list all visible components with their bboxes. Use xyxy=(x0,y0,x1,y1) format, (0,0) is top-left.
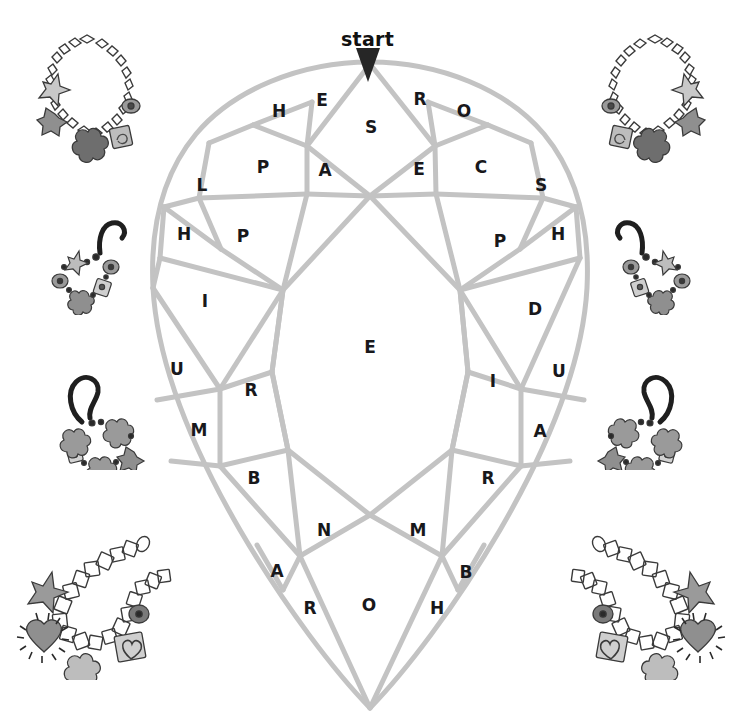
square-chain-links xyxy=(52,534,170,650)
pav-ll-6 xyxy=(288,450,300,556)
star-bead xyxy=(65,251,88,275)
facet-letter: S xyxy=(535,175,547,195)
facet-letter: B xyxy=(248,468,261,488)
decoration-charm-bracelet-top-left xyxy=(25,28,150,163)
spiky-bead xyxy=(117,447,144,470)
pav-ur-5 xyxy=(460,258,580,290)
facet-letter: C xyxy=(475,157,487,177)
facet-letter: E xyxy=(364,337,376,357)
square-charm xyxy=(609,125,633,149)
star-charm xyxy=(39,74,70,106)
square-charm xyxy=(109,125,133,149)
facet-letter: H xyxy=(272,101,286,121)
facet-letter: H xyxy=(430,598,444,618)
facet-letter: A xyxy=(270,561,284,581)
star-charm xyxy=(674,572,714,613)
butterfly-charm xyxy=(37,108,67,136)
facet-letter: I xyxy=(490,371,496,391)
crown-slant-left-2 xyxy=(307,194,370,196)
facet-letter: S xyxy=(365,117,377,137)
facet-letter: R xyxy=(303,598,316,618)
flower-bead-3 xyxy=(651,429,681,458)
facet-letter: H xyxy=(177,224,191,244)
facet-letter: E xyxy=(413,159,425,179)
facet-letter: M xyxy=(410,520,427,540)
pav-lr-3 xyxy=(452,450,521,466)
hook-clasp xyxy=(70,377,98,422)
facet-letter: B xyxy=(460,562,473,582)
facet-letter: E xyxy=(316,90,328,110)
crown-band-left-2 xyxy=(199,194,307,198)
flower-charm xyxy=(64,654,100,680)
pav-ll-8 xyxy=(300,556,370,708)
facet-letter: U xyxy=(552,361,566,381)
decoration-beaded-hook-bracelet-middle-right xyxy=(594,205,694,315)
facet-letter: D xyxy=(528,299,542,319)
facet-letter: A xyxy=(318,160,332,180)
girdle-left-upper xyxy=(209,125,253,143)
facet-letter: P xyxy=(494,231,506,251)
flower-bead-1 xyxy=(608,419,638,448)
hook-clasp xyxy=(100,223,125,253)
decoration-beaded-hook-bracelet-middle-left xyxy=(48,205,148,315)
pav-lr-7 xyxy=(370,515,442,556)
pav-ll-4 xyxy=(272,372,288,450)
facet-letter: N xyxy=(317,520,331,540)
flower-bead-2 xyxy=(625,457,655,470)
square-chain-links xyxy=(571,534,689,650)
facet-letter: R xyxy=(413,89,426,109)
crown-slant-right-2 xyxy=(370,194,436,196)
pav-left-mid-3 xyxy=(157,389,220,400)
heart-charm xyxy=(27,620,62,652)
star-bead xyxy=(654,251,677,275)
facet-letter: R xyxy=(481,468,494,488)
hook-clasp xyxy=(644,377,672,422)
facet-letter: L xyxy=(197,175,208,195)
flower-bead-1 xyxy=(103,419,133,448)
flower-bead-3 xyxy=(60,429,90,458)
facet-letter: I xyxy=(202,291,208,311)
heart-charm xyxy=(681,620,716,652)
decoration-square-link-charm-bracelet-bottom-right xyxy=(565,530,730,680)
facet-letter: M xyxy=(191,420,208,440)
pav-left-mid-5 xyxy=(171,461,220,466)
facet-letter: U xyxy=(170,359,184,379)
pav-left-mid-1 xyxy=(153,288,220,389)
girdle-band-right xyxy=(543,198,576,207)
crown-band-right-2 xyxy=(436,194,543,198)
decoration-flower-hook-bracelet-lower-left xyxy=(48,360,148,470)
puzzle-page: EHROSPAECLSHPPHIDEURIUMABRNMABROH start xyxy=(0,0,735,725)
decoration-flower-hook-bracelet-lower-right xyxy=(594,360,694,470)
facet-letter: H xyxy=(551,224,565,244)
flower-charm xyxy=(72,129,108,163)
pav-lr-6 xyxy=(442,450,452,556)
crown-slant-right xyxy=(435,146,436,194)
crown-div-3 xyxy=(435,125,488,146)
pav-ul-5 xyxy=(160,258,283,290)
pav-ll-9 xyxy=(283,556,300,590)
facet-letter: O xyxy=(457,101,471,121)
pav-right-mid-3 xyxy=(521,389,584,400)
pav-lr-9 xyxy=(442,556,458,590)
pav-ll-3 xyxy=(220,450,288,466)
facet-letter: R xyxy=(244,380,257,400)
pav-right-mid-5 xyxy=(521,461,570,466)
flower-bead-2 xyxy=(86,457,116,470)
facet-letter: A xyxy=(533,421,547,441)
facet-letters: EHROSPAECLSHPPHIDEURIUMABRNMABROH xyxy=(170,89,566,618)
spiky-bead xyxy=(598,447,625,470)
pav-ll-7 xyxy=(300,515,370,556)
star-charm xyxy=(28,572,68,613)
butterfly-charm xyxy=(675,108,705,136)
girdle-right-upper xyxy=(488,125,531,143)
decoration-square-link-charm-bracelet-bottom-left xyxy=(12,530,177,680)
facet-letter: P xyxy=(237,226,249,246)
facet-letter: O xyxy=(362,595,376,615)
star-charm xyxy=(672,74,703,106)
pav-lr-4 xyxy=(452,372,468,450)
girdle-band-left xyxy=(164,198,199,207)
flower-charm xyxy=(634,129,670,163)
hook-clasp xyxy=(618,223,643,253)
crown-div-1 xyxy=(253,125,307,146)
decoration-charm-bracelet-top-right xyxy=(592,28,717,163)
